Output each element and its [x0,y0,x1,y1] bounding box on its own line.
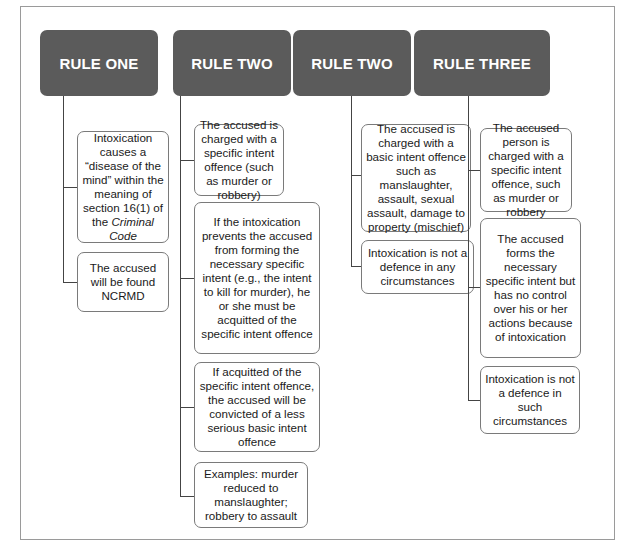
specific-intent-charge-box: The accused is charged with a specific i… [194,124,284,196]
connector [63,187,77,188]
rule-one-condition-box: Intoxication causes a “disease of the mi… [77,131,169,243]
rule-three-result-box: Intoxication is not a defence in such ci… [480,366,580,434]
criminal-code-italic: Criminal Code [109,215,154,242]
examples-box: Examples: murder reduced to manslaughter… [194,462,308,528]
connector [180,96,181,496]
connector [63,96,64,282]
connector [63,282,77,283]
not-a-defence-box: Intoxication is not a defence in any cir… [361,240,474,294]
connector [180,160,194,161]
connector [468,287,480,288]
connector [468,170,480,171]
connector [351,266,361,267]
header-rule-three: RULE THREE [414,30,550,96]
connector [468,400,480,401]
convicted-lesser-box: If acquitted of the specific intent offe… [194,362,320,452]
connector [468,96,469,400]
header-rule-two-specific: RULE TWO [173,30,291,96]
rule-three-charge-box: The accused person is charged with a spe… [480,128,572,212]
box-text: Intoxication causes a “disease of the mi… [82,131,163,228]
header-rule-two-basic: RULE TWO [293,30,411,96]
intent-prevented-box: If the intoxication prevents the accused… [194,202,320,354]
header-rule-one: RULE ONE [40,30,158,96]
connector [180,407,194,408]
connector [180,278,194,279]
connector [180,496,194,497]
basic-intent-charge-box: The accused is charged with a basic inte… [361,124,471,232]
rule-one-result-box: The accused will be found NCRMD [77,252,169,312]
connector [351,96,352,266]
connector [351,175,361,176]
no-control-box: The accused forms the necessary specific… [480,218,581,358]
